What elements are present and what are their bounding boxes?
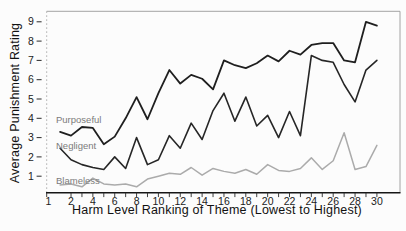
y-tick-label: 1 [28, 170, 34, 182]
y-tick-label: 2 [28, 151, 34, 163]
x-tick-label: 30 [371, 195, 383, 207]
punishment-rating-chart: 123456789124681012141618202224262830 Ave… [0, 0, 406, 231]
y-tick-label: 9 [28, 15, 34, 27]
y-tick-label: 8 [28, 35, 34, 47]
series-label-negligent: Negligent [56, 139, 96, 150]
series-label-purposeful: Purposeful [56, 113, 101, 124]
x-tick-label: 1 [45, 195, 51, 207]
x-axis-title: Harm Level Ranking of Theme (Lowest to H… [72, 203, 362, 217]
y-tick-label: 3 [28, 131, 34, 143]
series-line-purposeful [60, 22, 377, 145]
y-axis-title: Average Punishment Rating [8, 23, 22, 183]
y-tick-label: 4 [28, 112, 34, 124]
y-tick-label: 6 [28, 73, 34, 85]
y-tick-label: 5 [28, 93, 34, 105]
y-tick-label: 7 [28, 54, 34, 66]
series-label-blameless: Blameless [56, 174, 100, 185]
